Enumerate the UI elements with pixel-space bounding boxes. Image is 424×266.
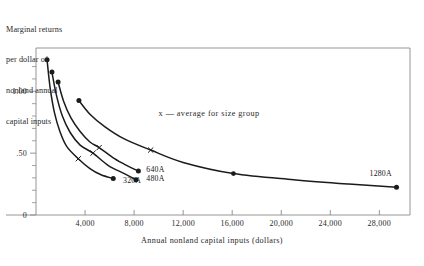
x-axis-title: Annual nonland capital inputs (dollars) (0, 236, 424, 245)
y-axis-caption-line-3: nonland annual (6, 86, 62, 96)
average-marker-480A (90, 151, 95, 156)
end-point-640A (136, 169, 141, 174)
average-marker-320A (76, 156, 81, 161)
average-marker-640A (97, 145, 102, 150)
x-tick-label: 8,000 (124, 219, 143, 228)
x-tick-label: 24,000 (319, 219, 343, 228)
x-tick-label: 12,000 (171, 219, 195, 228)
x-tick-label: 16,000 (220, 219, 244, 228)
x-tick-label: 20,000 (269, 219, 293, 228)
series-640A (56, 80, 141, 174)
x-tick-label: 4,000 (75, 219, 94, 228)
series-label-480A: 480A (146, 174, 164, 183)
plot-frame (6, 48, 410, 215)
y-axis-caption: Marginal returns per dollar of nonland a… (6, 4, 62, 148)
start-point-1280A (76, 98, 81, 103)
y-tick-label: .50 (16, 149, 27, 158)
x-axis-ticks: 4,0008,00012,00016,00020,00024,00028,000 (75, 210, 391, 228)
series-label-1280A: 1280A (370, 169, 392, 178)
end-point-320A (111, 176, 116, 181)
y-tick-label: 0 (23, 211, 27, 220)
series-label-320A: 320A (123, 176, 141, 185)
legend-note: x — average for size group (159, 109, 260, 118)
y-axis-caption-line-1: Marginal returns (6, 25, 62, 35)
y-axis-caption-line-4: capital inputs (6, 117, 62, 127)
y-axis-caption-line-2: per dollar of (6, 55, 62, 65)
series-label-640A: 640A (146, 165, 164, 174)
plot-canvas: 0.501.004,0008,00012,00016,00020,00024,0… (0, 0, 424, 266)
midpoint-marker-1280A (231, 171, 236, 176)
end-point-1280A (394, 185, 399, 190)
x-tick-label: 28,000 (368, 219, 392, 228)
figure-root: Marginal returns per dollar of nonland a… (0, 0, 424, 266)
